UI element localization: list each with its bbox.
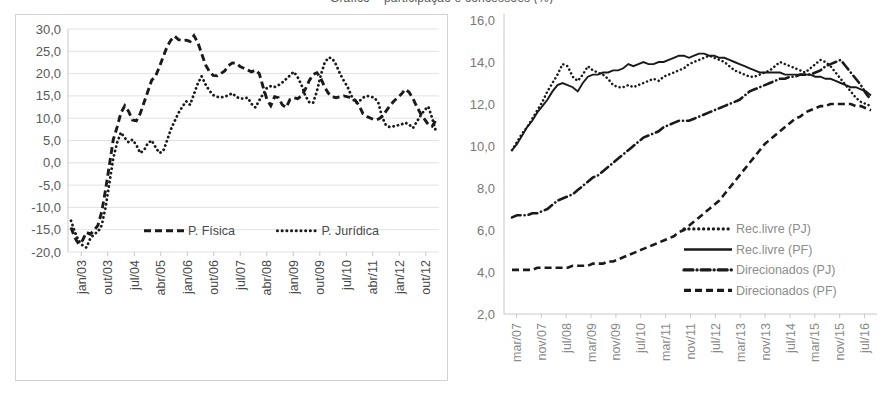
series-line-1 [512,56,871,151]
series-line-4 [512,104,871,270]
legend-label-3: Direcionados (PJ) [736,263,835,277]
x-axis-tick-label: mar/07 [510,323,524,362]
y-axis-tick-label: 14,0 [470,55,495,70]
y-axis-tick-label: 2,0 [477,307,495,322]
y-axis-tick-label: 20,0 [36,66,61,81]
y-axis-tick-label: 30,0 [36,22,61,37]
x-axis-tick-label: jul/14 [784,323,798,354]
x-axis-tick-label: abr/11 [366,260,380,295]
y-axis-tick-label: 25,0 [36,44,61,59]
left-chart-legend: P. FísicaP. Jurídica [144,224,379,238]
y-axis-tick-label: 12,0 [470,97,495,112]
x-axis-tick-label: out/09 [313,260,327,295]
y-axis-tick-label: 16,0 [470,13,495,28]
y-axis-tick-label: 8,0 [477,181,495,196]
x-axis-tick-label: mar/11 [659,323,673,361]
x-axis-tick-label: nov/13 [759,323,773,361]
y-axis-tick-label: 5,0 [43,133,61,148]
y-axis-tick-label: -10,0 [31,200,61,215]
x-axis-tick-label: jul/10 [340,260,354,291]
x-axis-tick-label: out/06 [207,260,221,295]
x-axis-tick-label: abr/05 [154,260,168,295]
y-axis-tick-label: 0,0 [43,155,61,170]
y-axis-tick-label: 10,0 [36,111,61,126]
x-axis-tick-label: nov/09 [609,323,623,361]
series-line-2 [71,58,436,248]
legend-label-4: Direcionados (PF) [736,284,837,298]
x-axis-tick-label: jul/04 [128,260,142,291]
x-axis-tick-label: mar/09 [585,323,599,362]
x-axis-tick-label: abr/08 [260,260,274,295]
y-axis-tick-label: 4,0 [477,265,495,280]
y-axis-tick-label: 15,0 [36,88,61,103]
legend-label-1: Rec.livre (PJ) [736,222,811,236]
x-axis-tick-label: nov/07 [535,323,549,361]
y-axis-tick-label: -20,0 [31,245,61,260]
y-axis-tick-label: 6,0 [477,223,495,238]
x-axis-tick-label: jul/16 [858,323,872,354]
x-axis-tick-label: jul/10 [634,323,648,354]
x-axis-tick-label: jan/12 [393,260,407,295]
x-axis-tick-label: jul/08 [560,323,574,354]
legend-label-1: P. Física [188,224,235,238]
x-axis-tick-label: nov/15 [833,323,847,361]
y-axis-tick-label: 10,0 [470,139,495,154]
x-axis-tick-label: out/12 [419,260,433,295]
right-chart-svg: 16,014,012,010,08,06,04,02,0mar/07nov/07… [452,4,883,402]
series-line-2 [512,54,871,151]
x-axis-tick-label: jul/07 [234,260,248,291]
x-axis-tick-label: mar/15 [808,323,822,362]
x-axis-tick-label: mar/13 [734,323,748,362]
right-chart-legend: Rec.livre (PJ)Rec.livre (PF)Direcionados… [684,222,837,298]
right-chart-panel: 16,014,012,010,08,06,04,02,0mar/07nov/07… [452,4,883,402]
legend-label-2: Rec.livre (PF) [736,243,812,257]
legend-label-2: P. Jurídica [321,224,378,238]
left-chart-panel: 30,025,020,015,010,05,00,0-5,0-10,0-15,0… [15,14,448,381]
figure-container: Gráfico – participação e concessões (%) … [0,0,883,402]
x-axis-tick-label: jan/03 [75,260,89,295]
x-axis-tick-label: jul/12 [709,323,723,354]
x-axis-tick-label: out/03 [101,260,115,295]
x-axis-tick-label: jan/06 [181,260,195,295]
x-axis-tick-label: jan/09 [287,260,301,295]
left-chart-svg: 30,025,020,015,010,05,00,0-5,0-10,0-15,0… [16,15,447,380]
y-axis-tick-label: -5,0 [39,178,61,193]
y-axis-tick-label: -15,0 [31,222,61,237]
x-axis-tick-label: nov/11 [684,323,698,360]
